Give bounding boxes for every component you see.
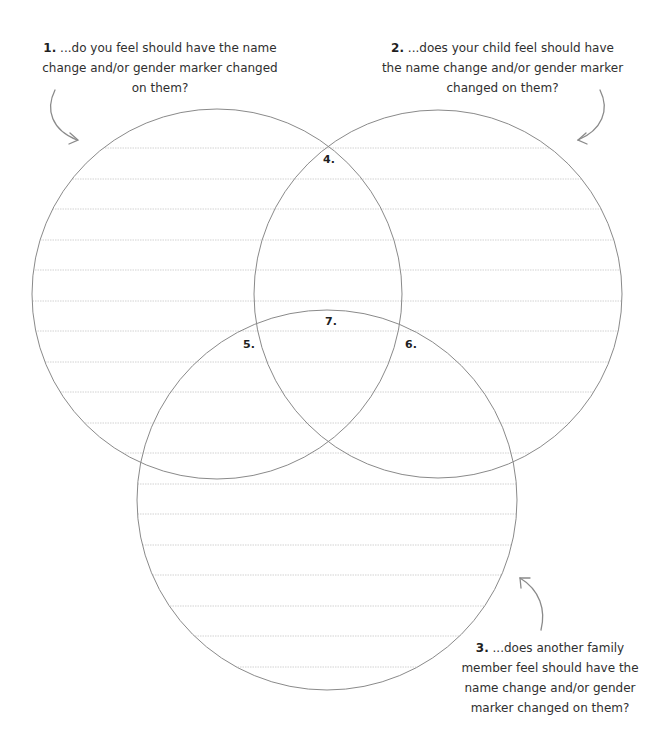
prompt-number: 2. xyxy=(391,41,404,55)
region-label-4: 4. xyxy=(323,153,335,166)
region-label-6: 6. xyxy=(405,338,417,351)
arrow-icon-1 xyxy=(51,90,78,144)
prompt-child: 2. ...does your child feel should have t… xyxy=(380,38,625,98)
prompt-number: 3. xyxy=(476,641,489,655)
prompt-text: ...does another family member feel shoul… xyxy=(461,641,638,715)
arrow-icon-2 xyxy=(578,90,604,144)
region-label-5: 5. xyxy=(243,338,255,351)
region-label-7: 7. xyxy=(325,315,337,328)
circle-family-member xyxy=(137,310,517,690)
prompt-number: 1. xyxy=(43,41,56,55)
writing-lines xyxy=(0,148,653,667)
prompt-you: 1. ...do you feel should have the name c… xyxy=(40,38,280,98)
venn-diagram xyxy=(0,0,653,747)
arrow-icon-3 xyxy=(520,578,543,630)
prompt-text: ...do you feel should have the name chan… xyxy=(42,41,277,95)
prompt-text: ...does your child feel should have the … xyxy=(382,41,623,95)
prompt-family-member: 3. ...does another family member feel sh… xyxy=(460,638,640,718)
